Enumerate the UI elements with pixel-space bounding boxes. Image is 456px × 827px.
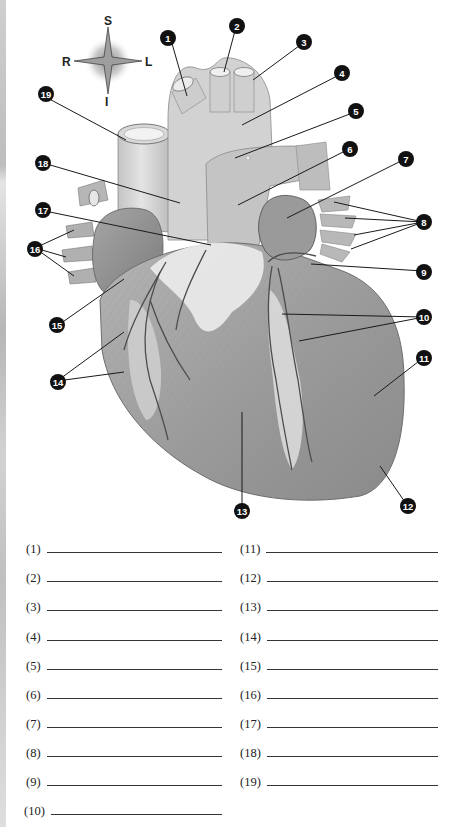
answer-row-12: (12) bbox=[240, 565, 438, 585]
callout-5: 5 bbox=[348, 103, 364, 119]
answer-row-8: (8) bbox=[26, 740, 222, 760]
svg-text:8: 8 bbox=[421, 217, 426, 228]
answer-number: (19) bbox=[240, 775, 261, 789]
callout-3: 3 bbox=[296, 34, 312, 50]
answer-blank-18[interactable] bbox=[267, 756, 438, 757]
answer-number: (15) bbox=[240, 659, 261, 673]
answer-number: (12) bbox=[240, 571, 261, 585]
svg-text:4: 4 bbox=[339, 68, 345, 79]
answer-blank-5[interactable] bbox=[47, 669, 222, 670]
svg-text:10: 10 bbox=[419, 312, 430, 323]
callout-6: 6 bbox=[342, 141, 358, 157]
svg-text:7: 7 bbox=[403, 154, 408, 165]
answer-number: (10) bbox=[24, 804, 45, 818]
heart-illustration bbox=[62, 58, 404, 500]
answer-number: (4) bbox=[26, 630, 41, 644]
answer-row-2: (2) bbox=[26, 565, 222, 585]
callout-9: 9 bbox=[416, 264, 432, 280]
answer-blank-2[interactable] bbox=[47, 581, 222, 582]
compass-star-icon bbox=[74, 27, 142, 94]
answer-number: (8) bbox=[26, 746, 41, 760]
answer-blank-3[interactable] bbox=[47, 610, 222, 611]
answer-row-7: (7) bbox=[26, 711, 222, 731]
answer-row-6: (6) bbox=[26, 682, 222, 702]
answer-row-10: (10) bbox=[24, 798, 222, 818]
left-pulmonary-artery bbox=[296, 142, 330, 190]
answer-number: (17) bbox=[240, 717, 261, 731]
answer-blank-16[interactable] bbox=[267, 698, 438, 699]
callout-16: 16 bbox=[27, 241, 43, 257]
answer-row-16: (16) bbox=[240, 682, 438, 702]
answer-blank-6[interactable] bbox=[47, 698, 222, 699]
left-subclavian bbox=[234, 72, 254, 112]
answer-blank-8[interactable] bbox=[47, 756, 222, 757]
answer-number: (6) bbox=[26, 688, 41, 702]
svg-text:19: 19 bbox=[41, 89, 52, 100]
answer-number: (7) bbox=[26, 717, 41, 731]
svg-text:12: 12 bbox=[403, 501, 414, 512]
callout-18: 18 bbox=[35, 155, 51, 171]
answer-row-15: (15) bbox=[240, 653, 438, 673]
orientation-compass: S R L I bbox=[62, 14, 152, 109]
compass-left-label: L bbox=[145, 55, 152, 69]
svg-text:3: 3 bbox=[301, 37, 306, 48]
svg-text:1: 1 bbox=[165, 33, 171, 44]
answer-blank-13[interactable] bbox=[267, 610, 438, 611]
callout-13: 13 bbox=[234, 503, 250, 519]
callout-11: 11 bbox=[416, 350, 432, 366]
answer-blank-12[interactable] bbox=[267, 581, 438, 582]
svg-text:14: 14 bbox=[53, 377, 64, 388]
answer-row-9: (9) bbox=[26, 769, 222, 789]
ligamentum-arteriosum bbox=[246, 156, 250, 160]
callout-17: 17 bbox=[35, 202, 51, 218]
answer-number: (14) bbox=[240, 630, 261, 644]
answer-blank-17[interactable] bbox=[267, 727, 438, 728]
svg-text:5: 5 bbox=[353, 106, 359, 117]
answer-blank-1[interactable] bbox=[47, 552, 222, 553]
answer-row-3: (3) bbox=[26, 594, 222, 614]
svg-text:17: 17 bbox=[38, 205, 49, 216]
callout-4: 4 bbox=[334, 65, 350, 81]
answer-blank-4[interactable] bbox=[47, 640, 222, 641]
answer-row-18: (18) bbox=[240, 740, 438, 760]
svg-text:18: 18 bbox=[38, 158, 49, 169]
callout-15: 15 bbox=[49, 317, 65, 333]
answer-row-11: (11) bbox=[240, 536, 438, 556]
callout-12: 12 bbox=[400, 498, 416, 514]
answer-number: (1) bbox=[26, 542, 41, 556]
svg-text:6: 6 bbox=[347, 144, 352, 155]
callout-14: 14 bbox=[50, 374, 66, 390]
svg-text:16: 16 bbox=[30, 244, 41, 255]
answer-blank-14[interactable] bbox=[267, 640, 438, 641]
svg-text:15: 15 bbox=[52, 320, 63, 331]
answer-row-17: (17) bbox=[240, 711, 438, 731]
compass-right-label: R bbox=[62, 55, 71, 69]
callout-2: 2 bbox=[229, 18, 245, 34]
answer-row-14: (14) bbox=[240, 624, 438, 644]
svg-text:13: 13 bbox=[237, 506, 248, 517]
compass-superior-label: S bbox=[104, 14, 112, 28]
answer-blank-15[interactable] bbox=[267, 669, 438, 670]
svg-text:2: 2 bbox=[234, 21, 239, 32]
answer-row-4: (4) bbox=[26, 624, 222, 644]
answer-number: (9) bbox=[26, 775, 41, 789]
answer-blank-19[interactable] bbox=[267, 785, 438, 786]
callout-7: 7 bbox=[398, 151, 414, 167]
callout-8: 8 bbox=[416, 214, 432, 230]
left-common-carotid bbox=[210, 72, 230, 112]
answer-blank-7[interactable] bbox=[47, 727, 222, 728]
answer-row-19: (19) bbox=[240, 769, 438, 789]
answer-blank-10[interactable] bbox=[51, 814, 222, 815]
answer-number: (5) bbox=[26, 659, 41, 673]
answer-row-13: (13) bbox=[240, 594, 438, 614]
answer-blank-9[interactable] bbox=[47, 785, 222, 786]
label-worksheet: (1) (2) (3) (4) (5) (6) (7) (8) (9) (10)… bbox=[0, 530, 456, 827]
svg-text:9: 9 bbox=[421, 267, 426, 278]
answer-number: (11) bbox=[240, 542, 260, 556]
answer-number: (13) bbox=[240, 600, 261, 614]
answer-number: (2) bbox=[26, 571, 41, 585]
answer-number: (16) bbox=[240, 688, 261, 702]
callout-1: 1 bbox=[160, 30, 176, 46]
answer-number: (18) bbox=[240, 746, 261, 760]
answer-blank-11[interactable] bbox=[266, 552, 438, 553]
